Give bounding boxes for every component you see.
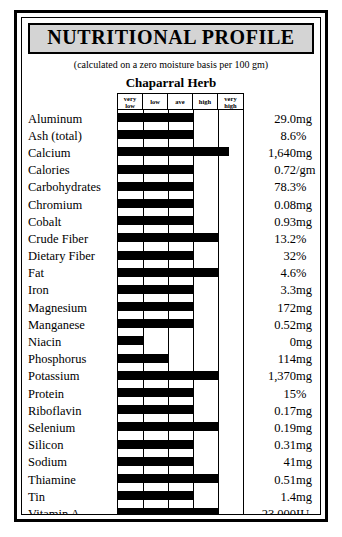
bar-track <box>117 196 244 213</box>
nutrient-value: 13.2 <box>244 230 296 247</box>
nutrient-table: verylowlowavehighveryhighAluminum29.0mgA… <box>28 93 321 515</box>
nutrient-unit: mg <box>296 196 321 213</box>
nutrient-name: Sodium <box>28 454 117 471</box>
nutrient-value: 15 <box>244 385 296 402</box>
bar-gridline <box>168 351 169 368</box>
nutrient-value: 41 <box>244 454 296 471</box>
nutrient-value: 0.51 <box>244 471 296 488</box>
bar-gridline <box>193 282 194 299</box>
nutrient-bar-cell <box>117 488 244 505</box>
nutrient-unit: mg <box>296 351 321 368</box>
bar-track <box>117 419 244 436</box>
nutrient-bar-cell <box>117 265 244 282</box>
table-row: Silicon0.31mg <box>28 437 321 454</box>
bar-gridline <box>218 488 219 505</box>
bar-gridline <box>218 213 219 230</box>
table-row: Ash (total)8.6% <box>28 127 321 144</box>
bar-gridline <box>218 437 219 454</box>
scale-label-1: low <box>143 94 168 109</box>
bar-track <box>117 385 244 402</box>
nutrient-unit: mg <box>296 316 321 333</box>
nutrient-bar <box>118 182 193 191</box>
nutrient-value: 78.3 <box>244 179 296 196</box>
bar-gridline <box>193 333 194 350</box>
bar-track <box>117 282 244 299</box>
nutrient-name: Fat <box>28 265 117 282</box>
bar-track <box>117 333 244 350</box>
nutrient-bar <box>118 422 218 431</box>
bar-track <box>117 248 244 265</box>
nutrient-bar <box>118 233 218 242</box>
nutrient-name: Crude Fiber <box>28 230 117 247</box>
nutrient-value: 4.6 <box>244 265 296 282</box>
bar-gridline <box>193 316 194 333</box>
nutrient-bar-cell <box>117 471 244 488</box>
nutrient-unit: mg <box>296 144 321 161</box>
bar-gridline <box>193 351 194 368</box>
nutrient-value: 0.17 <box>244 402 296 419</box>
bar-gridline <box>193 127 194 144</box>
nutrient-bar <box>118 457 193 466</box>
scale-label-line1: high <box>199 98 211 106</box>
bar-gridline <box>218 282 219 299</box>
bar-gridline <box>218 368 219 385</box>
nutrient-unit: IU <box>296 505 321 515</box>
table-row: Dietary Fiber32% <box>28 248 321 265</box>
nutrient-bar-cell <box>117 333 244 350</box>
bar-gridline <box>193 196 194 213</box>
bar-track <box>117 265 244 282</box>
nutrient-value: 1,640 <box>244 144 296 161</box>
bar-track <box>117 437 244 454</box>
scale-label-line1: ave <box>175 98 184 106</box>
nutrient-value: 0.72 <box>244 162 296 179</box>
nutrient-name: Ash (total) <box>28 127 117 144</box>
scale-label-line1: low <box>150 98 160 106</box>
scale-label-2: ave <box>168 94 193 109</box>
bar-gridline <box>218 454 219 471</box>
bar-gridline <box>193 179 194 196</box>
nutrient-bar-cell <box>117 437 244 454</box>
nutrient-name: Niacin <box>28 333 117 350</box>
bar-gridline <box>193 385 194 402</box>
nutrient-name: Chromium <box>28 196 117 213</box>
bar-track <box>117 351 244 368</box>
nutrient-value: 114 <box>244 351 296 368</box>
nutrient-bar <box>118 319 193 328</box>
table-row: Crude Fiber13.2% <box>28 230 321 247</box>
table-row: Aluminum29.0mg <box>28 110 321 127</box>
nutrient-bar <box>118 508 218 515</box>
bar-gridline <box>143 333 144 350</box>
scale-label-line2: low <box>125 102 135 110</box>
nutrient-unit: mg <box>296 437 321 454</box>
nutrient-bar-cell <box>117 127 244 144</box>
nutritional-profile-page: NUTRITIONAL PROFILE (calculated on a zer… <box>0 0 342 537</box>
nutrient-bar <box>118 440 193 449</box>
nutrient-name: Iron <box>28 282 117 299</box>
nutrient-value: 1.4 <box>244 488 296 505</box>
bar-gridline <box>218 299 219 316</box>
nutrient-value: 0.08 <box>244 196 296 213</box>
bar-gridline <box>218 230 219 247</box>
nutrient-name: Cobalt <box>28 213 117 230</box>
nutrient-unit: mg <box>296 110 321 127</box>
nutrient-unit: % <box>296 127 321 144</box>
table-row: Riboflavin0.17mg <box>28 402 321 419</box>
table-row: Fat4.6% <box>28 265 321 282</box>
bar-gridline <box>218 127 219 144</box>
nutrient-value: 0.19 <box>244 419 296 436</box>
bar-gridline <box>218 248 219 265</box>
nutrient-name: Aluminum <box>28 110 117 127</box>
nutrient-bar-cell <box>117 402 244 419</box>
nutrient-unit: % <box>296 230 321 247</box>
bar-gridline <box>193 437 194 454</box>
bar-gridline <box>218 110 219 127</box>
nutrient-bar-cell <box>117 454 244 471</box>
table-row: Protein15% <box>28 385 321 402</box>
table-row: Magnesium172mg <box>28 299 321 316</box>
bar-gridline <box>218 351 219 368</box>
table-row: Niacin0mg <box>28 333 321 350</box>
nutrient-name: Manganese <box>28 316 117 333</box>
nutrient-name: Thiamine <box>28 471 117 488</box>
nutrient-value: 1,370 <box>244 368 296 385</box>
nutrient-bar <box>118 474 218 483</box>
